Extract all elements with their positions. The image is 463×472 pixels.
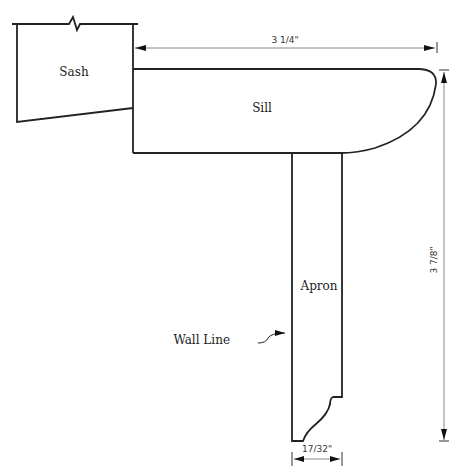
apron-thickness-dimension (292, 452, 342, 466)
apron-height-text: 3 7/8" (429, 246, 439, 273)
sill-width-text: 3 1/4" (271, 35, 298, 45)
diagram-canvas: Sash Sill Apron Wall Line 3 1/4" 3 7/8" … (0, 0, 463, 472)
sill-shape (133, 69, 436, 153)
wall-line-label: Wall Line (173, 333, 230, 347)
apron-shape (292, 153, 342, 441)
apron-height-dimension (439, 70, 449, 441)
sash-label: Sash (59, 65, 89, 79)
wall-line-leader-arrow (258, 333, 285, 343)
sill-label: Sill (252, 101, 272, 115)
sash-shape (12, 17, 138, 153)
window-sill-diagram: Sash Sill Apron Wall Line 3 1/4" 3 7/8" … (0, 0, 463, 472)
apron-thickness-text: 17/32" (302, 444, 332, 454)
apron-label: Apron (299, 279, 337, 293)
